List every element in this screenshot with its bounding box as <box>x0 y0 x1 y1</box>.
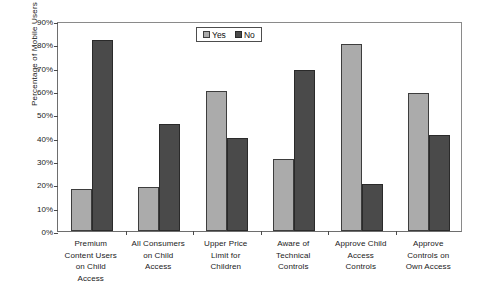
category-label-line: Upper Price <box>192 238 260 250</box>
y-axis-tick-label: 60% <box>37 87 53 98</box>
category-label-line: Access <box>57 273 125 285</box>
x-axis-category-labels: PremiumContent Userson ChildAccessAll Co… <box>57 238 462 298</box>
y-axis-tick-label: 70% <box>37 64 53 75</box>
y-axis-tick-mark <box>54 46 58 47</box>
category-label-line: Approve Child <box>327 238 395 250</box>
category-label-line: Access <box>327 250 395 262</box>
y-axis-tick-label: 0% <box>41 227 53 238</box>
category-label-line: on Child <box>125 250 193 262</box>
chart-legend: YesNo <box>196 27 262 42</box>
bar-yes-4 <box>341 44 362 231</box>
plot-area: 90%80%70%60%50%40%30%20%10%0% <box>57 22 462 232</box>
category-label-line: All Consumers <box>125 238 193 250</box>
y-axis-tick-mark <box>54 70 58 71</box>
y-axis-tick-label: 10% <box>37 204 53 215</box>
category-label-line: Access <box>125 261 193 273</box>
y-axis-tick-label: 20% <box>37 180 53 191</box>
y-axis-tick-mark <box>54 140 58 141</box>
category-label-line: Children <box>192 261 260 273</box>
bar-no-2 <box>227 138 248 231</box>
category-label-1: All Consumerson ChildAccess <box>125 238 193 273</box>
bar-yes-1 <box>138 187 159 231</box>
y-axis-tick-label: 50% <box>37 110 53 121</box>
category-label-line: Content Users <box>57 250 125 262</box>
y-axis-tick-label: 80% <box>37 40 53 51</box>
bar-chart-figure: Percentage of Mobile Users 90%80%70%60%5… <box>0 0 485 300</box>
y-axis-tick-mark <box>54 210 58 211</box>
x-axis-tick-mark <box>126 231 127 235</box>
category-label-line: Approve <box>395 238 463 250</box>
y-axis-tick-mark <box>54 233 58 234</box>
legend-entry-yes: Yes <box>203 30 226 40</box>
bar-no-3 <box>294 70 315 231</box>
category-label-5: ApproveControls onOwn Access <box>395 238 463 273</box>
category-label-line: Controls <box>260 261 328 273</box>
x-axis-tick-mark <box>261 231 262 235</box>
y-axis-tick-mark <box>54 93 58 94</box>
category-label-3: Aware ofTechnicalControls <box>260 238 328 273</box>
category-label-line: Controls <box>327 261 395 273</box>
category-label-0: PremiumContent Userson ChildAccess <box>57 238 125 284</box>
category-label-line: Own Access <box>395 261 463 273</box>
category-label-2: Upper PriceLimit forChildren <box>192 238 260 273</box>
x-axis-tick-mark <box>193 231 194 235</box>
category-label-line: Premium <box>57 238 125 250</box>
y-axis-tick-label: 90% <box>37 17 53 28</box>
y-axis-tick-mark <box>54 186 58 187</box>
x-axis-tick-mark <box>396 231 397 235</box>
legend-swatch-no-icon <box>235 31 242 38</box>
bar-yes-2 <box>206 91 227 231</box>
x-axis-tick-mark <box>328 231 329 235</box>
bar-no-5 <box>429 135 450 231</box>
category-label-line: Limit for <box>192 250 260 262</box>
bar-no-4 <box>362 184 383 231</box>
y-axis-tick-label: 30% <box>37 157 53 168</box>
legend-entry-no: No <box>235 30 255 40</box>
bar-yes-0 <box>71 189 92 231</box>
legend-label-yes: Yes <box>212 30 226 40</box>
bar-no-1 <box>159 124 180 231</box>
category-label-line: Technical <box>260 250 328 262</box>
y-axis-tick-mark <box>54 23 58 24</box>
category-label-line: Controls on <box>395 250 463 262</box>
legend-swatch-yes-icon <box>203 31 210 38</box>
y-axis-tick-mark <box>54 116 58 117</box>
bar-yes-5 <box>408 93 429 231</box>
category-label-line: on Child <box>57 261 125 273</box>
category-label-line: Aware of <box>260 238 328 250</box>
category-label-4: Approve ChildAccessControls <box>327 238 395 273</box>
bar-yes-3 <box>273 159 294 231</box>
y-axis-tick-mark <box>54 163 58 164</box>
legend-label-no: No <box>244 30 255 40</box>
y-axis-tick-label: 40% <box>37 134 53 145</box>
bar-no-0 <box>92 40 113 231</box>
